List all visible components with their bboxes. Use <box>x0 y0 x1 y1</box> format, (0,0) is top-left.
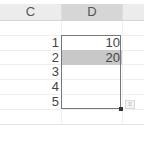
row-label: 3 <box>44 65 59 79</box>
row-label: 4 <box>44 80 59 94</box>
row-label: 5 <box>44 95 59 109</box>
column-header-c[interactable]: C <box>0 4 62 21</box>
column-header-e[interactable] <box>122 4 144 21</box>
row-label: 2 <box>44 51 59 65</box>
row-label: 1 <box>44 36 59 50</box>
quick-analysis-icon[interactable]: ≡ <box>125 100 135 109</box>
fill-handle[interactable] <box>119 107 123 111</box>
selection-range <box>61 35 121 109</box>
column-header-d[interactable]: D <box>62 4 122 21</box>
sheet-bottom-divider <box>0 124 144 125</box>
